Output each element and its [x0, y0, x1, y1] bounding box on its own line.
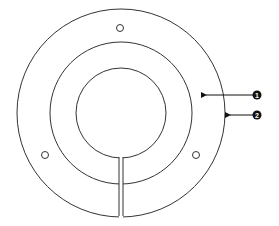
- mounting-hole-top: [117, 25, 124, 32]
- outer-circle: [17, 9, 225, 217]
- middle-circle: [50, 42, 192, 184]
- mounting-hole-left: [42, 152, 49, 159]
- svg-text:2: 2: [255, 112, 259, 119]
- mounting-hole-right: [193, 152, 200, 159]
- callout-1: 1: [206, 91, 262, 100]
- svg-text:1: 1: [255, 92, 259, 99]
- inner-circle: [76, 68, 166, 158]
- callout-2: 2: [230, 111, 262, 120]
- flange-diagram: 1 2: [0, 0, 279, 226]
